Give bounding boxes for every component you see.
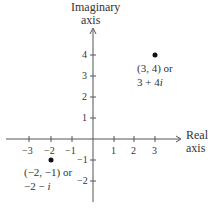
y-tick-label: 4 [82,49,87,60]
x-tick-label: 2 [131,145,136,156]
point-3-4 [153,53,158,58]
y-tick-label: 2 [82,91,87,102]
x-tick-label: −2 [44,145,55,156]
real-axis-label-2: axis [186,142,205,155]
x-tick-label: 3 [152,145,157,156]
y-tick-label: 3 [82,70,87,81]
x-tick-label: −3 [22,145,33,156]
y-tick-label: 1 [82,112,87,123]
point-neg2-neg1 [49,158,54,163]
point-label-3-4-line2: 3 + 4i [137,76,163,89]
y-tick-label: −1 [77,154,88,165]
point-label-neg2-neg1-line2: −2 − i [24,180,50,193]
imaginary-axis-label-2: axis [81,14,100,27]
y-tick-label: −2 [77,175,88,186]
x-tick-label: 1 [111,145,116,156]
point-label-neg2-neg1-line1: (−2, −1) or [24,166,72,179]
x-tick-label: −1 [65,145,76,156]
point-label-3-4-line1: (3, 4) or [137,62,173,75]
